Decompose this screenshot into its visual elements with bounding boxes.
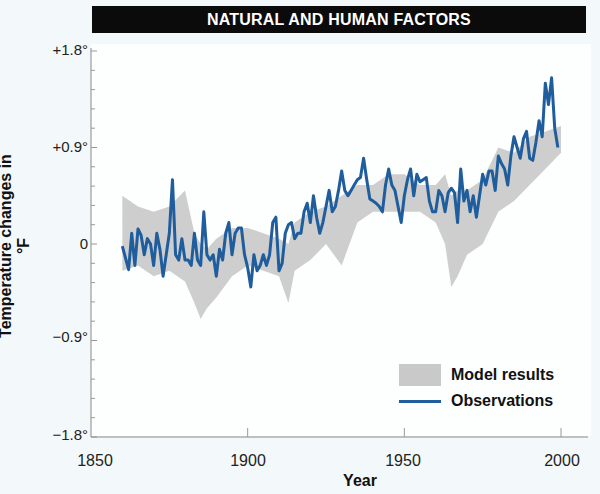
model-swatch-icon (399, 364, 441, 386)
y-tick-label: −0.9° (30, 328, 88, 345)
y-tick-label: +1.8° (30, 41, 88, 58)
y-tick-label: 0 (30, 235, 88, 252)
legend-label: Model results (451, 366, 554, 384)
x-axis-label: Year (330, 472, 390, 490)
legend: Model results Observations (399, 362, 554, 414)
y-tick-label: −1.8° (30, 426, 88, 443)
legend-item-observations: Observations (399, 388, 554, 414)
x-tick-label: 1950 (373, 452, 433, 470)
y-tick-label: +0.9° (30, 138, 88, 155)
x-tick-label: 2000 (532, 452, 592, 470)
chart-canvas (0, 0, 600, 494)
model-results-band (122, 126, 561, 319)
legend-label: Observations (451, 392, 553, 410)
x-tick-label: 1900 (218, 452, 278, 470)
x-tick-label: 1850 (65, 452, 125, 470)
y-axis-label: Temperature changes in °F (0, 151, 33, 341)
observations-swatch-icon (399, 400, 441, 403)
legend-item-model: Model results (399, 362, 554, 388)
